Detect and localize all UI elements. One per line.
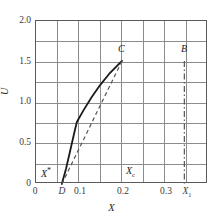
x-star-superscript: * bbox=[47, 166, 51, 175]
x-axis-tick-labels: 0 D 0.1 0.2 0.3 X1 bbox=[0, 187, 223, 201]
solid-curve-DC bbox=[62, 61, 122, 184]
x-tick-0-1: 0.1 bbox=[70, 187, 90, 197]
annotation-label-X-c: Xc bbox=[126, 166, 135, 180]
x-1-subscript: 1 bbox=[188, 191, 191, 198]
y-tick-2-0: 2.0 bbox=[19, 16, 31, 26]
y-tick-1-5: 1.5 bbox=[19, 57, 31, 67]
x-tick-X-1: X1 bbox=[177, 187, 197, 199]
annotation-label-C: C bbox=[118, 44, 125, 54]
annotation-label-X-star: X* bbox=[41, 166, 51, 179]
annotation-label-B: B bbox=[181, 44, 187, 54]
y-tick-0-5: 0.5 bbox=[19, 138, 31, 148]
x-tick-0-3: 0.3 bbox=[156, 187, 176, 197]
plot-area: C B X* Xc bbox=[35, 20, 207, 183]
y-axis-title: U bbox=[0, 88, 10, 95]
chart-container: 2.0 1.5 1.0 0.5 0 U C B bbox=[0, 0, 223, 221]
x-c-subscript: c bbox=[132, 171, 135, 178]
x-tick-D: D bbox=[54, 187, 70, 197]
x-tick-0: 0 bbox=[27, 187, 43, 197]
x-axis-title: X bbox=[0, 202, 223, 213]
y-tick-1-0: 1.0 bbox=[19, 97, 31, 107]
dashed-chord-DC bbox=[62, 61, 122, 184]
x-tick-0-2: 0.2 bbox=[113, 187, 133, 197]
